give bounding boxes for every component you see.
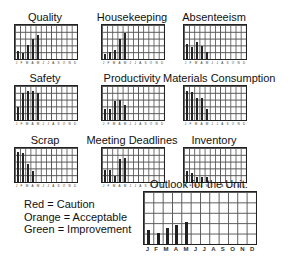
bar [114,176,116,182]
bar [22,53,24,59]
tick-label: J [103,184,105,188]
bar [114,50,116,59]
tick-label: D [74,61,76,65]
x-axis-ticks: JFMAMJJASOND [101,61,165,65]
x-axis-ticks: JFMAMJJASOND [14,122,78,126]
bar [109,52,111,59]
tick-label: D [243,122,245,126]
tick-label: A [118,184,120,188]
bar [22,93,24,120]
bar [119,39,121,59]
tick-label: M [113,61,116,65]
bar [201,98,203,120]
tick-label: A [200,122,202,126]
bar [17,107,19,120]
bar [201,46,203,59]
tick-label: O [63,122,65,126]
x-axis-ticks: JFMAMJJASOND [14,184,78,188]
tick-label: J [134,61,136,65]
tick-label: D [250,246,254,253]
tick-label: D [161,61,163,65]
tick-label: M [206,122,209,126]
tick-label: J [103,61,105,65]
tick-label: A [31,122,33,126]
chart-plot-area [14,147,78,183]
tick-label: F [189,122,191,126]
chart-plot-area [14,24,78,60]
tick-label: J [185,61,187,65]
chart-title: Materials Consumption [163,72,265,84]
tick-label: S [227,122,229,126]
tick-label: M [124,122,127,126]
tick-label: J [212,61,214,65]
bar [124,33,126,59]
tick-label: A [52,184,54,188]
tick-label: M [37,184,40,188]
tick-label: O [63,61,65,65]
bar [147,230,150,244]
tick-label: F [107,184,109,188]
x-axis-ticks: JFMAMJJASOND [101,122,165,126]
tick-label: O [150,122,152,126]
tick-label: M [37,122,40,126]
bar [27,164,29,182]
tick-label: J [103,122,105,126]
bar [37,93,39,120]
tick-label: J [16,184,18,188]
chart-plot-area [143,191,257,245]
legend-red: Red = Caution [24,198,131,211]
tick-label: S [58,184,60,188]
bar [32,91,34,120]
tick-label: J [47,61,49,65]
x-axis-ticks: JFMAMJJASOND [183,61,247,65]
tick-label: J [202,246,205,253]
bar [186,91,188,120]
bar [119,100,121,120]
tick-label: F [20,122,22,126]
tick-label: A [118,122,120,126]
tick-label: N [240,246,244,253]
chart-title: Outlook for the Unit: [123,178,275,190]
bar [104,170,106,182]
x-axis-ticks: JFMAMJJASOND [14,61,78,65]
tick-label: S [58,122,60,126]
tick-label: J [16,61,18,65]
bar [185,222,188,244]
tick-label: F [154,246,158,253]
bar [104,109,106,120]
tick-label: J [216,61,218,65]
tick-label: N [156,122,158,126]
tick-label: N [69,122,71,126]
bar [32,171,34,182]
tick-label: M [113,184,116,188]
tick-label: J [16,122,18,126]
tick-label: F [20,61,22,65]
chart-title: Inventory [163,134,265,146]
tick-label: N [156,61,158,65]
tick-label: J [47,122,49,126]
tick-label: J [134,122,136,126]
bar [109,109,111,120]
tick-label: F [107,61,109,65]
bar [37,35,39,59]
bar [206,52,208,59]
tick-label: M [26,122,29,126]
bar [114,101,116,120]
bar [17,51,19,59]
tick-label: M [26,61,29,65]
bar [157,233,160,244]
tick-label: A [52,122,54,126]
tick-label: N [238,122,240,126]
tick-label: J [212,122,214,126]
tick-label: O [63,184,65,188]
tick-label: N [69,184,71,188]
color-legend: Red = Caution Orange = Acceptable Green … [24,198,131,236]
chart-plot-area [101,24,165,60]
tick-label: M [37,61,40,65]
bar [175,225,178,244]
bar [109,170,111,182]
tick-label: N [238,61,240,65]
tick-label: F [107,122,109,126]
chart-plot-area [183,24,247,60]
x-axis-ticks: JFMAMJJASOND [143,246,257,253]
